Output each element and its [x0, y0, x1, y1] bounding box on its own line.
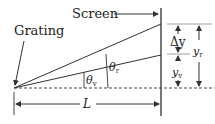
y-r-label: yr: [192, 45, 203, 59]
theta-r-tick: [106, 54, 108, 88]
y-v-label: yv: [171, 66, 182, 80]
grating-pointer-arrow: [15, 41, 24, 85]
theta-r-label: θr: [109, 61, 120, 75]
delta-y-label: Δy: [170, 35, 186, 49]
length-label: L: [82, 97, 91, 111]
diffraction-grating-diagram: Screen Grating θv θr L Δy yv yr: [0, 0, 215, 124]
screen-label: Screen: [72, 6, 119, 21]
diagram-svg: Screen Grating θv θr L Δy yv yr: [0, 0, 215, 124]
theta-v-label: θv: [86, 74, 97, 88]
grating-label: Grating: [14, 23, 64, 38]
